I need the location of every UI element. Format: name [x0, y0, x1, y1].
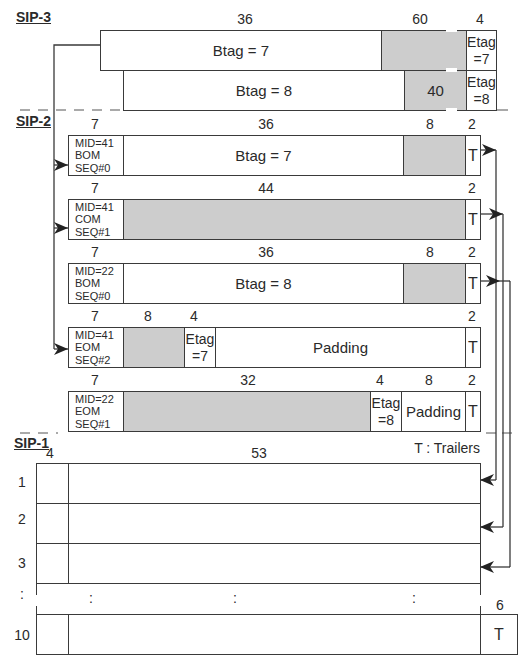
- shaded-payload-cell: [381, 31, 466, 70]
- width-label: 44: [246, 180, 286, 196]
- width-label: 8: [419, 372, 439, 388]
- width-label: 2: [462, 116, 482, 132]
- cell-header: MID=41 BOM SEQ#0: [69, 136, 123, 175]
- sequence-number: SEQ#2: [75, 354, 110, 367]
- padding-cell: Padding: [215, 328, 465, 367]
- row-divider: [37, 503, 480, 504]
- width-label: 7: [85, 180, 105, 196]
- width-label: 2: [462, 372, 482, 388]
- segment-type: BOM: [75, 149, 100, 162]
- ellipsis: :: [230, 590, 240, 606]
- width-label: 4: [42, 445, 58, 461]
- etag-cell: Etag =7: [184, 328, 215, 367]
- sip2-cell-row: MID=22 EOM SEQ#1 Etag =8 Padding T: [68, 391, 481, 432]
- row-number: 2: [12, 511, 32, 527]
- sip3-pdu-btag8: Btag = 8 40 Etag =8: [123, 70, 497, 111]
- row-number: :: [12, 586, 32, 602]
- width-label: 7: [85, 308, 105, 324]
- legend-trailers: T : Trailers: [400, 440, 480, 456]
- sip2-cell-row: MID=41 BOM SEQ#0 Btag = 7 T: [68, 135, 481, 176]
- ellipsis: :: [86, 590, 96, 606]
- trailer-cell: T: [465, 392, 480, 431]
- etag-label: Etag: [467, 34, 496, 51]
- shaded-payload-cell: [123, 200, 465, 239]
- width-label: 2: [462, 180, 482, 196]
- sip3-pdu-btag7: Btag = 7 Etag =7: [100, 30, 497, 71]
- padding-cell: Padding: [401, 392, 465, 431]
- row-number: 1: [12, 474, 32, 490]
- sip2-cell-row: MID=41 EOM SEQ#2 Etag =7 Padding T: [68, 327, 481, 368]
- etag-value: =8: [474, 91, 490, 108]
- sequence-number: SEQ#0: [75, 290, 110, 303]
- shaded-payload-cell: [403, 136, 465, 175]
- width-label: 36: [225, 11, 265, 27]
- break-mark: [446, 28, 457, 32]
- width-label: 4: [370, 372, 390, 388]
- cell-header: MID=41 COM SEQ#1: [69, 200, 123, 239]
- width-label: 32: [228, 372, 268, 388]
- width-label: 60: [400, 11, 440, 27]
- etag-value: =7: [192, 348, 208, 365]
- segment-type: EOM: [75, 405, 100, 418]
- row-divider: [37, 543, 480, 544]
- row-number: 3: [12, 555, 32, 571]
- sip2-cell-row: MID=41 COM SEQ#1 T: [68, 199, 481, 240]
- cell-header: MID=22 BOM SEQ#0: [69, 264, 123, 303]
- break-mark: [446, 68, 457, 72]
- row-number: 10: [12, 627, 32, 643]
- etag-cell: Etag =7: [466, 31, 496, 70]
- sip1-frame: [36, 463, 481, 584]
- header-divider: [68, 464, 69, 583]
- width-label: 8: [138, 308, 158, 324]
- etag-cell: Etag =8: [466, 71, 496, 110]
- trailer-cell: T: [465, 328, 480, 367]
- width-label: 7: [85, 244, 105, 260]
- trailer-cell: T: [465, 264, 480, 303]
- section-label-sip2: SIP-2: [16, 113, 51, 129]
- etag-cell: Etag =8: [370, 392, 401, 431]
- width-label: 36: [246, 116, 286, 132]
- sequence-number: SEQ#1: [75, 226, 110, 239]
- sequence-number: SEQ#1: [75, 418, 110, 431]
- ellipsis: :: [409, 590, 419, 606]
- width-label: 53: [244, 445, 274, 461]
- payload-cell: Btag = 8: [123, 264, 403, 303]
- width-label: 8: [420, 116, 440, 132]
- payload-cell: Btag = 7: [101, 31, 381, 70]
- mid-label: MID=41: [75, 137, 114, 150]
- width-label: 2: [462, 244, 482, 260]
- segment-type: COM: [75, 213, 101, 226]
- etag-value: =8: [378, 412, 394, 429]
- etag-value: =7: [474, 51, 490, 68]
- sip1-row-10: T: [36, 614, 518, 655]
- width-label: 2: [462, 308, 482, 324]
- mid-label: MID=41: [75, 329, 114, 342]
- trailer-cell: T: [480, 615, 517, 654]
- etag-label: Etag: [372, 395, 401, 412]
- etag-label: Etag: [467, 74, 496, 91]
- segment-type: BOM: [75, 277, 100, 290]
- width-label: 7: [85, 116, 105, 132]
- sip2-cell-row: MID=22 BOM SEQ#0 Btag = 8 T: [68, 263, 481, 304]
- mid-label: MID=22: [75, 393, 114, 406]
- section-label-sip3: SIP-3: [16, 9, 51, 25]
- mid-label: MID=22: [75, 265, 114, 278]
- break-mark: [446, 108, 457, 112]
- mid-label: MID=41: [75, 201, 114, 214]
- segment-type: EOM: [75, 341, 100, 354]
- header-divider: [68, 615, 69, 654]
- shaded-payload-cell: [123, 392, 370, 431]
- etag-label: Etag: [186, 331, 215, 348]
- shaded-payload-cell: 40: [404, 71, 466, 110]
- payload-cell: Btag = 8: [124, 71, 404, 110]
- width-label: 4: [184, 308, 204, 324]
- trailer-cell: T: [465, 136, 480, 175]
- width-label: 7: [85, 372, 105, 388]
- trailer-cell: T: [465, 200, 480, 239]
- cell-header: MID=41 EOM SEQ#2: [69, 328, 123, 367]
- shaded-payload-cell: [123, 328, 184, 367]
- payload-cell: Btag = 7: [123, 136, 403, 175]
- width-label: 6: [490, 597, 510, 613]
- width-label: 36: [246, 244, 286, 260]
- sequence-number: SEQ#0: [75, 162, 110, 175]
